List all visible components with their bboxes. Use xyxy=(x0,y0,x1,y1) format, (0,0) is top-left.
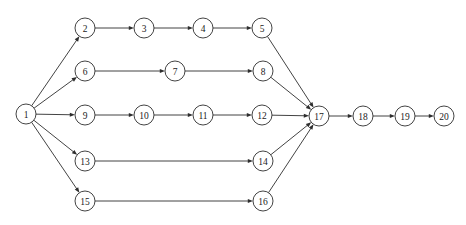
node-circle[interactable] xyxy=(75,191,95,211)
graph-node-15[interactable]: 15 xyxy=(75,191,95,211)
arrowhead-icon xyxy=(248,69,253,73)
graph-node-12[interactable]: 12 xyxy=(252,105,272,125)
graph-edge xyxy=(95,69,165,73)
graph-edge xyxy=(34,120,77,155)
arrowhead-icon xyxy=(248,199,253,203)
graph-edge xyxy=(95,26,134,30)
graph-node-13[interactable]: 13 xyxy=(75,151,95,171)
graph-edge xyxy=(32,36,80,106)
arrowhead-icon xyxy=(188,26,193,30)
graph-diagram: 1234567891011121314151617181920 xyxy=(0,0,466,225)
graph-edge xyxy=(36,113,75,117)
arrowhead-icon xyxy=(75,187,80,192)
graph-node-9[interactable]: 9 xyxy=(75,105,95,125)
node-circle[interactable] xyxy=(75,151,95,171)
arrowhead-icon xyxy=(75,36,80,41)
graph-edge xyxy=(185,69,253,73)
graph-node-1[interactable]: 1 xyxy=(16,104,36,124)
arrowhead-icon xyxy=(390,114,395,118)
graph-node-5[interactable]: 5 xyxy=(252,18,272,38)
arrowhead-icon xyxy=(129,26,134,30)
graph-node-3[interactable]: 3 xyxy=(134,18,154,38)
graph-edge xyxy=(373,114,395,118)
node-circle[interactable] xyxy=(134,105,154,125)
graph-edge xyxy=(415,114,434,118)
node-circle[interactable] xyxy=(253,191,273,211)
arrowhead-icon xyxy=(304,114,309,118)
arrowhead-icon xyxy=(71,77,76,82)
graph-edge xyxy=(95,113,134,117)
arrowhead-icon xyxy=(70,113,75,117)
arrowhead-icon xyxy=(248,159,253,163)
node-circle[interactable] xyxy=(253,61,273,81)
graph-edge xyxy=(267,36,313,107)
graph-edge xyxy=(154,26,193,30)
node-circle[interactable] xyxy=(252,18,272,38)
node-circle[interactable] xyxy=(165,61,185,81)
graph-edge xyxy=(95,199,253,203)
node-circle[interactable] xyxy=(75,61,95,81)
graph-node-8[interactable]: 8 xyxy=(253,61,273,81)
graph-node-19[interactable]: 19 xyxy=(395,106,415,126)
node-circle[interactable] xyxy=(193,105,213,125)
node-circle[interactable] xyxy=(193,18,213,38)
arrowhead-icon xyxy=(129,113,134,117)
graph-edge xyxy=(95,159,253,163)
node-circle[interactable] xyxy=(253,151,273,171)
graph-node-17[interactable]: 17 xyxy=(309,106,329,126)
node-circle[interactable] xyxy=(134,18,154,38)
graph-edge xyxy=(32,122,80,192)
graph-edge xyxy=(271,77,311,109)
graph-node-6[interactable]: 6 xyxy=(75,61,95,81)
node-circle[interactable] xyxy=(353,106,373,126)
graph-edge xyxy=(154,113,193,117)
node-circle[interactable] xyxy=(252,105,272,125)
arrowhead-icon xyxy=(348,114,353,118)
graph-edge xyxy=(213,113,252,117)
graph-node-14[interactable]: 14 xyxy=(253,151,273,171)
node-circle[interactable] xyxy=(75,105,95,125)
node-circle[interactable] xyxy=(75,18,95,38)
graph-node-4[interactable]: 4 xyxy=(193,18,213,38)
graph-node-20[interactable]: 20 xyxy=(434,106,454,126)
graph-node-2[interactable]: 2 xyxy=(75,18,95,38)
nodes-layer: 1234567891011121314151617181920 xyxy=(16,18,454,211)
graph-node-11[interactable]: 11 xyxy=(193,105,213,125)
graph-edge xyxy=(213,26,252,30)
graph-edge xyxy=(272,114,309,118)
arrowhead-icon xyxy=(429,114,434,118)
graph-node-7[interactable]: 7 xyxy=(165,61,185,81)
graph-node-10[interactable]: 10 xyxy=(134,105,154,125)
node-circle[interactable] xyxy=(395,106,415,126)
graph-canvas: 1234567891011121314151617181920 xyxy=(0,0,466,225)
arrowhead-icon xyxy=(247,113,252,117)
arrowhead-icon xyxy=(188,113,193,117)
node-circle[interactable] xyxy=(434,106,454,126)
arrowhead-icon xyxy=(160,69,165,73)
graph-edge xyxy=(329,114,353,118)
graph-edge xyxy=(269,124,314,192)
node-circle[interactable] xyxy=(309,106,329,126)
node-circle[interactable] xyxy=(16,104,36,124)
graph-edge xyxy=(271,122,311,154)
arrowhead-icon xyxy=(247,26,252,30)
arrowhead-icon xyxy=(309,102,314,108)
graph-node-18[interactable]: 18 xyxy=(353,106,373,126)
graph-node-16[interactable]: 16 xyxy=(253,191,273,211)
